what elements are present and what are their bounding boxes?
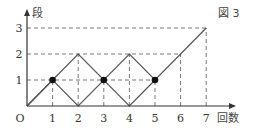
main-path [27,28,206,106]
x-tick-label: 3 [100,112,107,125]
y-tick-label: 1 [16,74,23,87]
x-axis-label: 回数 [217,112,239,125]
x-tick-label: 7 [203,112,210,125]
y-tick-label: 2 [16,48,23,61]
data-point [49,77,56,84]
data-point [101,77,108,84]
y-axis-arrow-icon [24,9,30,16]
y-axis-label: 段 [32,6,43,20]
data-point [152,77,159,84]
x-tick-label: 4 [126,112,133,125]
x-tick-label: 1 [49,112,56,125]
x-tick-label: 6 [177,112,184,125]
x-tick-label: 5 [152,112,159,125]
stair-diagram: 1234567123O回数段図 3 [0,0,254,132]
origin-label: O [15,112,24,125]
x-tick-label: 2 [75,112,82,125]
y-tick-label: 3 [16,22,23,35]
figure-label: 図 3 [218,7,240,20]
x-axis-arrow-icon [229,103,236,109]
secondary-path [27,80,155,106]
